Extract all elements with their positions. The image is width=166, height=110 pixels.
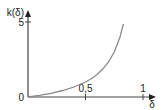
y-axis-arrow-icon [25,10,31,17]
series-curve [28,24,123,97]
origin-label: 0 [18,92,24,103]
x-tick-label: 1 [140,83,146,94]
chart: 0,515 k(δ) δ 0 [0,0,166,110]
x-axis-label: δ [149,99,155,110]
y-tick-label: 5 [18,17,24,28]
y-axis-label: k(δ) [7,7,24,18]
